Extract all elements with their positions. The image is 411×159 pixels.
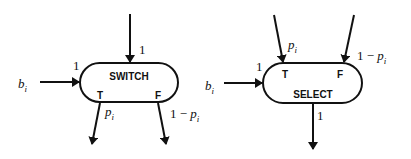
switch-node xyxy=(80,63,178,102)
switch-output-true-label: pi xyxy=(104,104,115,122)
switch-output-false-label: 1 − pi xyxy=(170,106,200,124)
select-port-true: T xyxy=(282,69,288,80)
select-input-true-arrow xyxy=(274,15,283,62)
switch-node-group: SWITCH T F 1 bi 1 pi 1 − pi xyxy=(18,14,200,144)
select-control-var: bi xyxy=(205,78,215,96)
switch-label: SWITCH xyxy=(109,71,148,82)
select-output-weight: 1 xyxy=(317,108,324,123)
switch-control-weight: 1 xyxy=(73,58,80,73)
select-node-group: SELECT T F pi 1 − pi bi 1 1 xyxy=(205,15,387,149)
switch-port-true: T xyxy=(97,90,103,101)
switch-top-weight: 1 xyxy=(139,42,146,57)
select-port-false: F xyxy=(337,69,343,80)
select-input-false-label: 1 − pi xyxy=(357,48,387,66)
switch-control-var: bi xyxy=(18,76,28,94)
select-control-weight: 1 xyxy=(256,59,263,74)
switch-port-false: F xyxy=(155,90,161,101)
select-input-false-arrow xyxy=(344,15,354,62)
select-input-true-label: pi xyxy=(287,37,298,55)
switch-select-diagram: SWITCH T F 1 bi 1 pi 1 − pi SELECT T F p… xyxy=(0,0,411,159)
switch-output-true-arrow xyxy=(92,103,100,144)
switch-output-false-arrow xyxy=(158,103,166,144)
select-label: SELECT xyxy=(293,89,332,100)
